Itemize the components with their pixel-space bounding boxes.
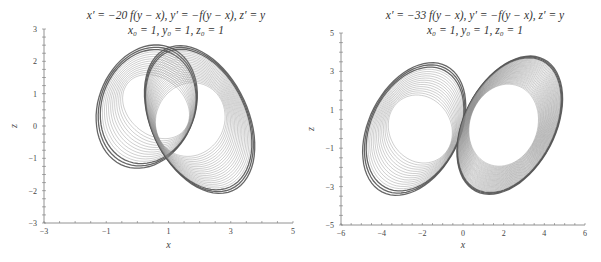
x-tick-label: 1 bbox=[167, 227, 171, 236]
x-tick-label: 4 bbox=[542, 229, 546, 238]
y-tick-label: −1 bbox=[325, 144, 334, 153]
y-tick-label: −3 bbox=[28, 219, 37, 228]
y-tick-label: 2 bbox=[33, 57, 37, 66]
y-tick-label: −2 bbox=[28, 187, 37, 196]
y-tick-label: 5 bbox=[330, 29, 334, 38]
chart-right: x′ = −33 f(y − x), y′ = −f(y − x), z′ = … bbox=[300, 0, 601, 262]
x-tick-label: 6 bbox=[583, 229, 587, 238]
y-tick-label: −3 bbox=[325, 183, 334, 192]
chart-right-plot: −6−4−20246−5−3−1135xz bbox=[300, 0, 601, 262]
x-tick-label: −6 bbox=[337, 229, 346, 238]
y-tick-label: 3 bbox=[330, 67, 334, 76]
y-tick-label: 3 bbox=[33, 25, 37, 34]
y-tick-label: 1 bbox=[33, 90, 37, 99]
trajectory-loop bbox=[364, 65, 464, 193]
x-tick-label: −3 bbox=[40, 227, 49, 236]
x-tick-label: −1 bbox=[102, 227, 111, 236]
x-tick-label: −4 bbox=[377, 229, 386, 238]
y-tick-label: −1 bbox=[28, 154, 37, 163]
x-tick-label: 3 bbox=[229, 227, 233, 236]
y-tick-label: −5 bbox=[325, 221, 334, 230]
trajectory-group bbox=[96, 45, 255, 193]
chart-left-plot: −3−1135−3−2−10123xz bbox=[0, 0, 300, 262]
x-axis-label: x bbox=[460, 239, 466, 250]
y-tick-label: 1 bbox=[330, 106, 334, 115]
trajectory-loop bbox=[383, 89, 455, 170]
trajectory-group bbox=[363, 56, 563, 195]
y-axis-label: z bbox=[8, 124, 19, 129]
trajectory-loop bbox=[388, 95, 452, 163]
x-axis-label: x bbox=[165, 239, 171, 250]
chart-left: x′ = −20 f(y − x), y′ = −f(y − x), z′ = … bbox=[0, 0, 300, 262]
y-axis-label: z bbox=[305, 127, 316, 132]
x-tick-label: −2 bbox=[418, 229, 427, 238]
x-tick-label: 5 bbox=[291, 227, 295, 236]
y-tick-label: 0 bbox=[33, 122, 37, 131]
x-tick-label: 0 bbox=[461, 229, 465, 238]
x-tick-label: 2 bbox=[502, 229, 506, 238]
